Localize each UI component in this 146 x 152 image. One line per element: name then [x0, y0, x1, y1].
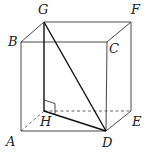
label-H: H — [39, 114, 52, 129]
label-F: F — [130, 2, 141, 17]
label-G: G — [38, 2, 48, 17]
label-B: B — [7, 34, 18, 49]
label-A: A — [5, 134, 15, 149]
edge-DE — [106, 111, 131, 131]
edge-BG — [21, 22, 44, 42]
label-C: C — [109, 41, 119, 56]
label-E: E — [131, 114, 142, 129]
visible-edges — [21, 22, 131, 131]
triangle-GHD — [44, 22, 106, 131]
label-D: D — [101, 135, 113, 150]
cuboid-diagram: G F B C H E A D — [0, 0, 146, 152]
vertex-labels: G F B C H E A D — [5, 2, 142, 150]
edge-CF — [107, 22, 131, 42]
edge-CD — [106, 42, 107, 131]
